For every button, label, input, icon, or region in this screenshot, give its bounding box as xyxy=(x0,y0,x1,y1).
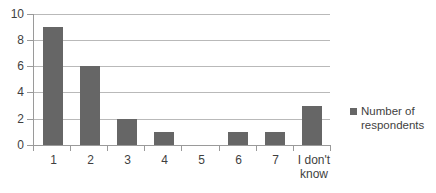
bar-chart: 10 8 6 4 2 0 1 2 3 4 5 6 7 I don't know … xyxy=(0,0,436,193)
y-axis-label-2: 2 xyxy=(0,113,24,125)
x-axis-label-1: 1 xyxy=(35,153,72,167)
legend-entry-label: Number of respondents xyxy=(361,104,436,132)
y-axis-label-6: 6 xyxy=(0,60,24,72)
x-axis-label-4: 4 xyxy=(146,153,183,167)
x-tick-mark-6 xyxy=(256,146,257,151)
y-axis-label-8: 8 xyxy=(0,34,24,46)
x-tick-mark-1 xyxy=(70,146,71,151)
x-axis-label-5: 5 xyxy=(183,153,220,167)
legend-label-line-1: Number of xyxy=(361,105,415,117)
x-axis-label-i-dont-know: I don't know xyxy=(292,153,336,181)
y-axis-label-10: 10 xyxy=(0,8,24,20)
y-tick-mark-2 xyxy=(27,119,33,120)
bar-4 xyxy=(154,132,174,145)
x-tick-mark-2 xyxy=(107,146,108,151)
bar-6 xyxy=(228,132,248,145)
x-tick-mark-3 xyxy=(144,146,145,151)
x-tick-mark-5 xyxy=(219,146,220,151)
y-tick-mark-6 xyxy=(27,66,33,67)
x-axis-label-3: 3 xyxy=(109,153,146,167)
y-axis-label-0: 0 xyxy=(0,139,24,151)
y-tick-mark-4 xyxy=(27,92,33,93)
bar-3 xyxy=(117,119,137,145)
x-tick-mark-0 xyxy=(33,146,34,151)
plot-area xyxy=(33,14,330,145)
bars-layer xyxy=(33,14,330,145)
x-axis-line xyxy=(33,145,331,146)
chart-legend: Number of respondents xyxy=(350,104,436,132)
y-tick-mark-10 xyxy=(27,14,33,15)
bar-i-dont-know xyxy=(302,106,322,145)
y-axis-line xyxy=(33,14,34,146)
x-tick-mark-4 xyxy=(181,146,182,151)
x-axis-label-7: 7 xyxy=(257,153,294,167)
bar-2 xyxy=(80,66,100,145)
x-tick-mark-8 xyxy=(330,146,331,151)
legend-label-line-2: respondents xyxy=(361,119,424,131)
bar-1 xyxy=(43,27,63,145)
x-axis-label-6: 6 xyxy=(220,153,257,167)
y-axis-label-4: 4 xyxy=(0,86,24,98)
y-tick-mark-8 xyxy=(27,40,33,41)
legend-swatch-icon xyxy=(350,108,357,115)
bar-7 xyxy=(265,132,285,145)
x-axis-labels: 1 2 3 4 5 6 7 I don't know xyxy=(33,153,330,193)
x-tick-mark-7 xyxy=(293,146,294,151)
x-axis-label-2: 2 xyxy=(72,153,109,167)
